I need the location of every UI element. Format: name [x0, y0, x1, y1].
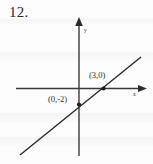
- point-marker-y-intercept: [77, 102, 81, 106]
- y-axis-label: y: [84, 27, 87, 33]
- point-marker-x-intercept: [101, 86, 105, 90]
- x-axis-arrowhead: [138, 85, 147, 92]
- problem-figure: 12. y x (3,0) (0,-2): [0, 0, 153, 164]
- y-intercept-label: (0,-2): [48, 94, 67, 104]
- x-axis-label: x: [133, 91, 136, 97]
- y-axis-arrowhead: [75, 17, 83, 26]
- coordinate-graph: y x (3,0) (0,-2): [0, 0, 153, 164]
- x-intercept-label: (3,0): [89, 70, 105, 80]
- plotted-line: [20, 57, 141, 155]
